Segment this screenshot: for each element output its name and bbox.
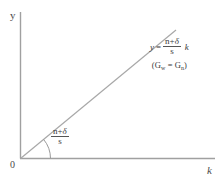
ray-equation-line: y = n+δ s k — [150, 37, 189, 57]
diagram-canvas — [0, 0, 222, 184]
angle-slope-annotation: n+δ s — [51, 127, 69, 147]
equation-multiplier-k: k — [183, 42, 189, 52]
equation-fraction-denominator: s — [163, 47, 181, 56]
steady-state-condition: (Gw = Gn) — [150, 60, 189, 70]
angle-arc — [44, 139, 51, 158]
equation-lhs: y — [150, 42, 154, 52]
condition-open-paren: (G — [152, 60, 161, 70]
condition-subscript-natural: n — [181, 65, 184, 71]
equation-equals-sign: = — [156, 42, 161, 52]
equation-fraction: n+δ s — [163, 37, 181, 57]
equation-numerator-delta: δ — [175, 36, 179, 46]
origin-label: 0 — [10, 160, 15, 170]
condition-subscript-warranted: w — [161, 65, 165, 71]
angle-fraction: n+δ s — [51, 127, 69, 147]
x-axis-label: k — [207, 165, 212, 176]
y-axis-label: y — [10, 10, 16, 21]
growth-model-diagram: y k 0 n+δ s y = n+δ s k (Gw = Gn) — [0, 0, 222, 184]
angle-fraction-denominator: s — [51, 137, 69, 146]
condition-close-paren: ) — [184, 60, 187, 70]
ray-equation-annotation: y = n+δ s k (Gw = Gn) — [150, 37, 189, 70]
angle-numerator-delta: δ — [63, 126, 67, 136]
condition-equals: = G — [165, 60, 181, 70]
